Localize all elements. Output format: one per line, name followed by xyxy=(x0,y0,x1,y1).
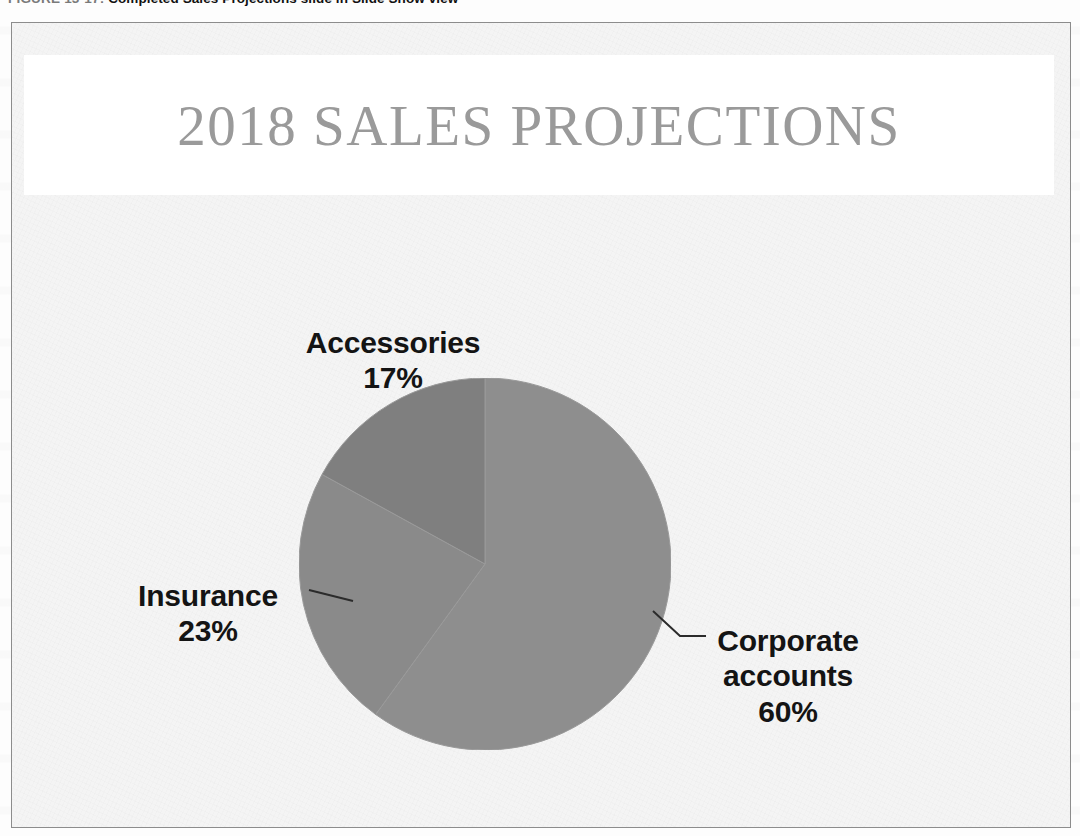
pie-chart[interactable]: Accessories 17% Insurance 23% Corporate … xyxy=(12,203,1070,827)
slide-show-frame[interactable]: 2018 SALES PROJECTIONS Accessories 17% I… xyxy=(11,22,1071,828)
figure-caption-label: FIGURE 13-17: xyxy=(8,0,104,6)
pie-slices-svg xyxy=(299,378,671,750)
pie-label-accessories-value: 17% xyxy=(278,360,508,395)
pie-chart-graphic[interactable] xyxy=(299,378,671,750)
pie-label-insurance-value: 23% xyxy=(98,613,318,648)
slide-title-placeholder[interactable]: 2018 SALES PROJECTIONS xyxy=(24,55,1054,195)
slide-title-text: 2018 SALES PROJECTIONS xyxy=(177,93,900,158)
pie-label-accessories-name: Accessories xyxy=(278,325,508,360)
pie-label-corporate-name-line2: accounts xyxy=(673,658,903,693)
pie-label-insurance-name: Insurance xyxy=(98,578,318,613)
pie-label-accessories: Accessories 17% xyxy=(278,325,508,396)
pie-label-corporate: Corporate accounts 60% xyxy=(673,623,903,729)
figure-caption: FIGURE 13-17: Completed Sales Projection… xyxy=(8,0,1068,7)
figure-caption-title: Completed Sales Projections slide in Sli… xyxy=(108,0,458,6)
pie-label-corporate-value: 60% xyxy=(673,694,903,729)
pie-label-insurance: Insurance 23% xyxy=(98,578,318,649)
pie-label-corporate-name-line1: Corporate xyxy=(673,623,903,658)
